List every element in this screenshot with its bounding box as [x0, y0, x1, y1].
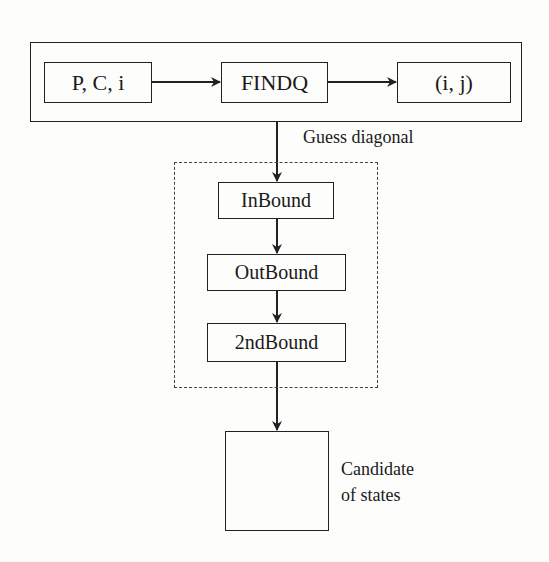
node-2ndbound-label: 2ndBound [235, 331, 318, 354]
node-inbound-label: InBound [241, 189, 311, 212]
node-findq-label: FINDQ [241, 70, 308, 96]
node-output-label: (i, j) [435, 70, 473, 96]
node-outbound-label: OutBound [235, 261, 318, 284]
node-outbound: OutBound [207, 254, 346, 291]
node-2ndbound: 2ndBound [207, 323, 346, 362]
edge-label-guess-diagonal: Guess diagonal [303, 124, 413, 150]
node-input: P, C, i [44, 62, 152, 103]
node-findq: FINDQ [221, 62, 328, 103]
node-input-label: P, C, i [72, 70, 125, 96]
candidate-label-line2: of states [341, 482, 400, 508]
node-output: (i, j) [397, 62, 511, 103]
node-inbound: InBound [218, 182, 334, 219]
node-candidate-states [225, 431, 329, 531]
candidate-label-line1: Candidate [341, 456, 414, 482]
